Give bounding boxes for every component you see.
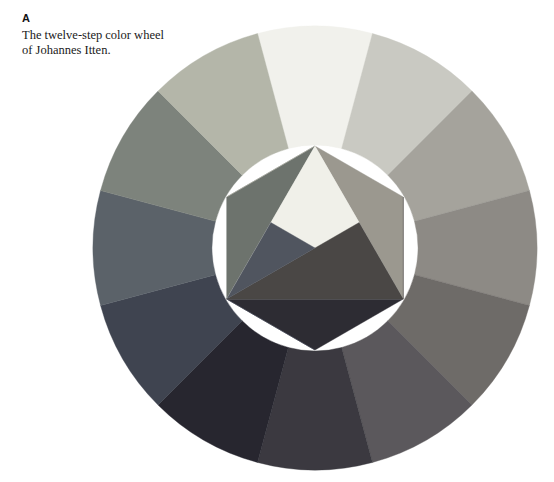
figure-panel: A The twelve-step color wheel of Johanne… (0, 0, 554, 482)
itten-color-wheel (0, 0, 554, 482)
